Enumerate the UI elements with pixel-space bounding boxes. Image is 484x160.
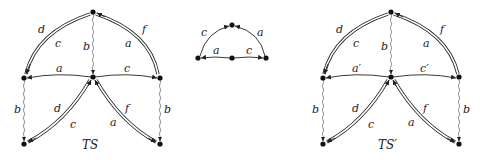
tsp-node-mid-left	[320, 75, 325, 80]
middle-label: a	[213, 44, 220, 57]
ts-label: a	[110, 116, 117, 129]
tsp-label: f	[439, 23, 446, 36]
ts-node-bottom-right	[157, 141, 162, 146]
tsp-node-mid-right	[456, 74, 461, 79]
tsp-edge-right-b	[458, 80, 460, 140]
ts-label: f	[124, 102, 131, 115]
tsp-label: b	[463, 103, 470, 116]
middle-label: a	[257, 26, 264, 39]
middle-edge-base-right	[234, 57, 263, 58]
tsp-label: c′	[420, 62, 429, 75]
tsp-label: b	[381, 40, 388, 53]
tsp-label: a′	[352, 62, 362, 75]
ts-edge-mid-right	[95, 75, 157, 78]
ts-label: a	[125, 37, 132, 50]
tsp-label: b	[312, 103, 319, 116]
tsp-node-bottom-left	[320, 141, 325, 146]
ts-label: d	[54, 102, 61, 115]
ts-edge-right-b	[159, 80, 161, 140]
ts-graph: d c f a b a c b b d c f a TS	[14, 9, 171, 152]
tsp-edge-vertical-b	[390, 14, 392, 72]
middle-label: c	[246, 44, 252, 57]
ts-edge-vertical-b	[92, 14, 94, 72]
tsp-node-center	[388, 74, 393, 79]
middle-graph: c a a c	[195, 22, 268, 60]
middle-node-top	[229, 22, 234, 27]
tsp-label: a	[408, 116, 415, 129]
ts-caption: TS	[82, 138, 98, 152]
tsp-label: c	[368, 118, 374, 131]
tsp-label: d	[352, 102, 359, 115]
ts-label: a	[56, 62, 63, 75]
ts-label: f	[141, 23, 148, 36]
middle-node-center	[229, 55, 234, 60]
ts-label: b	[164, 103, 171, 116]
ts-node-bottom-left	[21, 141, 26, 146]
ts-node-center	[90, 74, 95, 79]
tsp-edge-mid-right	[393, 75, 456, 78]
middle-node-right	[263, 55, 268, 60]
ts-label: c	[55, 37, 61, 50]
middle-edge-base-left	[201, 57, 230, 58]
tsp-node-bottom-right	[456, 141, 461, 146]
ts-edge-left-b	[23, 80, 25, 140]
tsp-label: d	[336, 23, 343, 36]
middle-node-left	[195, 55, 200, 60]
tsp-label: f	[422, 102, 429, 115]
tsp-edge-left-b	[322, 80, 324, 140]
ts-label: b	[83, 40, 90, 53]
tsp-edge-mid-left	[326, 75, 389, 78]
ts-label: b	[14, 103, 21, 116]
tsp-caption: TS′	[378, 138, 397, 152]
ts-edge-mid-left	[27, 75, 91, 78]
tsp-node-top	[388, 9, 393, 14]
tsp-label: a	[423, 37, 430, 50]
tsp-label: c	[353, 37, 359, 50]
diagram-canvas: d c f a b a c b b d c f a TS c a a c	[0, 0, 484, 160]
ts-prime-graph: d c f a b a′ c′ b b d c f a TS′	[312, 9, 470, 152]
middle-label: c	[201, 26, 207, 39]
ts-label: d	[38, 23, 45, 36]
ts-node-top	[90, 9, 95, 14]
ts-label: c	[70, 118, 76, 131]
ts-label: c	[124, 62, 130, 75]
ts-node-mid-right	[157, 75, 162, 80]
ts-node-mid-left	[21, 75, 26, 80]
